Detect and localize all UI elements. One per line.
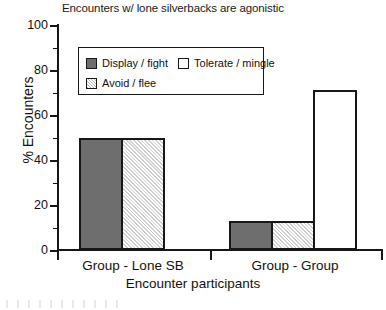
x-category-label-group-group: Group - Group [215, 258, 375, 273]
legend-label-display-fight: Display / fight [102, 58, 168, 69]
hatched-square-icon [86, 78, 97, 89]
bar-group2-display-fight [229, 221, 273, 250]
bar-group2-tolerate-mingle [313, 90, 357, 250]
legend-item-avoid-flee: Avoid / flee [86, 78, 156, 89]
x-tick-right [381, 251, 383, 260]
x-axis-line [57, 249, 383, 251]
x-tick-middle [210, 251, 212, 260]
legend-label-avoid-flee: Avoid / flee [102, 78, 156, 89]
legend: Display / fight Tolerate / mingle Avoid … [78, 47, 264, 95]
legend-item-display-fight: Display / fight [86, 58, 168, 69]
chart-title: Encounters w/ lone silverbacks are agoni… [62, 2, 382, 14]
legend-row-1: Display / fight Tolerate / mingle [86, 53, 257, 73]
legend-row-2: Avoid / flee [86, 73, 257, 93]
y-axis-title: % Encounters [20, 40, 36, 200]
y-tick-label-20: 20 [4, 199, 48, 212]
bar-group1-display-fight [79, 138, 123, 251]
bar-group2-avoid-flee [271, 221, 315, 250]
solid-dark-square-icon [86, 58, 97, 69]
y-tick-label-100: 100 [4, 19, 48, 32]
x-axis-title: Encounter participants [0, 276, 386, 291]
legend-label-tolerate-mingle: Tolerate / mingle [194, 58, 275, 69]
legend-item-tolerate-mingle: Tolerate / mingle [178, 58, 275, 69]
bar-chart: Encounters w/ lone silverbacks are agoni… [0, 0, 386, 310]
bar-group1-avoid-flee [121, 138, 165, 251]
y-tick-label-0: 0 [4, 244, 48, 257]
x-category-label-group-lone-sb: Group - Lone SB [58, 258, 208, 273]
white-square-icon [178, 58, 189, 69]
